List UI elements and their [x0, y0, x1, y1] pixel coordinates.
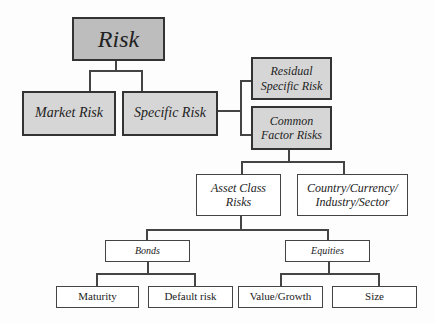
connector: [280, 273, 282, 286]
connector: [240, 216, 242, 230]
node-equities: Equities: [285, 240, 370, 262]
connector: [146, 229, 148, 240]
connector: [194, 273, 196, 286]
node-common-factor-risks-label: Common Factor Risks: [253, 114, 330, 143]
node-country-currency-label: Country/Currency/ Industry/Sector: [298, 181, 407, 210]
connector: [89, 70, 91, 91]
node-market-risk-label: Market Risk: [35, 105, 103, 122]
node-market-risk: Market Risk: [22, 91, 116, 136]
connector: [241, 161, 344, 163]
connector: [146, 229, 328, 231]
node-size: Size: [332, 286, 417, 308]
node-asset-class-risks-label: Asset Class Risks: [197, 181, 280, 210]
connector: [218, 110, 241, 112]
node-value-growth-label: Value/Growth: [250, 290, 312, 303]
node-bonds-label: Bonds: [135, 245, 160, 257]
node-bonds: Bonds: [105, 240, 190, 262]
connector: [115, 61, 117, 70]
node-residual-specific-risk: Residual Specific Risk: [251, 57, 332, 100]
connector: [240, 134, 251, 136]
node-asset-class-risks: Asset Class Risks: [196, 174, 281, 216]
node-common-factor-risks: Common Factor Risks: [251, 106, 332, 150]
connector: [96, 273, 98, 286]
connector: [240, 80, 242, 135]
node-default-risk: Default risk: [148, 286, 233, 308]
node-specific-risk: Specific Risk: [122, 91, 218, 136]
node-size-label: Size: [365, 290, 384, 303]
node-residual-specific-risk-label: Residual Specific Risk: [253, 64, 330, 93]
connector: [327, 229, 329, 240]
node-default-risk-label: Default risk: [164, 290, 216, 303]
connector: [288, 150, 290, 161]
connector: [280, 273, 379, 275]
node-risk: Risk: [72, 17, 165, 61]
connector: [141, 70, 143, 91]
connector: [89, 70, 141, 72]
figure-caption-cropped: [80, 314, 420, 324]
node-risk-label: Risk: [98, 25, 139, 54]
connector: [343, 161, 345, 174]
node-specific-risk-label: Specific Risk: [134, 105, 206, 122]
connector: [241, 161, 243, 174]
node-country-currency-industry-sector: Country/Currency/ Industry/Sector: [297, 174, 408, 216]
connector: [378, 273, 380, 286]
node-equities-label: Equities: [311, 245, 344, 257]
node-value-growth: Value/Growth: [238, 286, 323, 308]
connector: [240, 80, 251, 82]
connector: [96, 273, 195, 275]
node-maturity-label: Maturity: [78, 290, 117, 303]
node-maturity: Maturity: [56, 286, 139, 308]
